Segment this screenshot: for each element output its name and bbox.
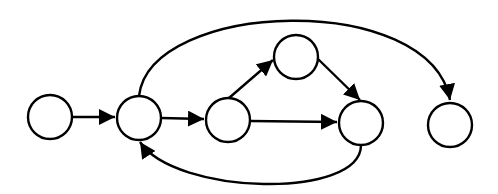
node-n3 (206, 98, 250, 142)
edge-n2-n3 (161, 118, 204, 119)
edge-n4-n5 (318, 59, 360, 100)
edge-n5-n2 (140, 142, 361, 184)
edge-n3-n5 (250, 121, 337, 122)
graph-diagram (0, 0, 498, 194)
node-n4 (274, 35, 318, 79)
node-n6 (428, 103, 472, 147)
node-n5 (339, 101, 383, 145)
edge-n3-n4 (229, 60, 273, 98)
node-n1 (28, 95, 72, 139)
node-n2 (117, 96, 161, 140)
